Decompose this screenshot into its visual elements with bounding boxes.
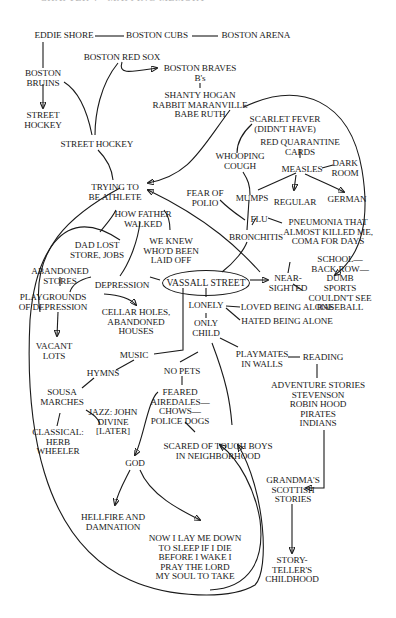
node-measles: MEASLES [281,165,322,175]
node-mumps: MUMPS [236,194,269,204]
node-hellfire-damnation: HELLFIRE AND DAMNATION [81,513,145,532]
node-grandmas-scottish-stories: GRANDMA'S SCOTTISH STORIES [266,476,319,505]
node-reading: READING [303,353,344,363]
node-scared-tough-boys: SCARED OF TOUGH BOYS IN NEIGHBORHOOD [163,442,272,461]
node-music: MUSIC [120,351,149,361]
node-depression: DEPRESSION [95,281,150,291]
node-whooping-cough: WHOOPING COUGH [215,152,264,171]
central-node-vassall-street: VASSALL STREET [162,270,250,296]
node-abandoned-stores: ABANDONED STORES [31,267,88,286]
node-lonely: LONELY [188,301,223,311]
node-now-i-lay-me-down: NOW I LAY ME DOWN TO SLEEP IF I DIE BEFO… [149,534,241,582]
node-fear-of-polio: FEAR OF POLIO [187,189,224,208]
node-trying-to-be-athlete: TRYING TO BE ATHLETE [89,183,142,202]
node-red-quarantine-cards: RED QUARANTINE CARDS [260,138,340,157]
node-regular: REGULAR [274,198,317,208]
node-adventure-stories: ADVENTURE STORIES STEVENSON ROBIN HOOD P… [271,381,365,429]
node-only-child: ONLY CHILD [192,319,220,338]
node-storytellers-childhood: STORY- TELLER'S CHILDHOOD [265,556,319,585]
node-playgrounds: PLAYGROUNDS OF DEPRESSION [19,293,87,312]
node-flu: FLU [250,215,267,225]
node-boston-red-sox: BOSTON RED SOX [84,53,161,63]
node-street-hockey: STREET HOCKEY [61,140,134,150]
memory-map-diagram: CHAPTER 4 · MAPPING MEMORY [0,0,396,618]
node-school-back-row: SCHOOL— BACK ROW— DUMB [311,255,369,284]
node-pneumonia: PNEUMONIA THAT ALMOST KILLED ME, COMA FO… [283,218,373,247]
node-boston-arena: BOSTON ARENA [222,31,291,41]
node-no-pets: NO PETS [164,367,200,377]
node-dark-room: DARK ROOM [331,159,358,178]
node-street-hockey-small: STREET HOCKEY [24,111,62,130]
node-dad-lost-store: DAD LOST STORE, JOBS [70,241,124,260]
node-vacant-lots: VACANT LOTS [36,342,73,361]
node-braves-players: SHANTY HOGAN RABBIT MARANVILLE BABE RUTH [153,91,248,120]
node-eddie-shore: EDDIE SHORE [35,31,94,41]
node-jazz-john-divine: JAZZ: JOHN DIVINE [LATER] [89,408,138,437]
node-hymns: HYMNS [87,369,120,379]
node-scarlet-fever: SCARLET FEVER (DIDN'T HAVE) [250,115,321,134]
node-how-father-walked: HOW FATHER WALKED [114,210,171,229]
node-near-sighted: NEAR- SIGHTED [269,274,308,293]
central-node-label: VASSALL STREET [163,278,249,288]
node-bronchitis: BRONCHITIS [229,233,283,243]
node-boston-cubs: BOSTON CUBS [126,31,188,41]
node-we-knew-laid-off: WE KNEW WHO'D BEEN LAID OFF [143,237,199,266]
node-classical-herb-wheeler: CLASSICAL: HERB WHEELER [32,428,84,457]
node-feared-dogs: FEARED AIREDALES— CHOWS— POLICE DOGS [150,388,209,426]
node-boston-bruins: BOSTON BRUINS [25,69,61,88]
node-sousa-marches: SOUSA MARCHES [40,388,84,407]
node-german: GERMAN [327,195,366,205]
node-hated-being-alone: HATED BEING ALONE [241,317,333,327]
node-cellar-holes: CELLAR HOLES, ABANDONED HOUSES [102,308,171,337]
node-playmates-in-walls: PLAYMATES IN WALLS [236,350,288,369]
node-loved-being-alone: LOVED BEING ALONE [241,303,334,313]
node-boston-braves: BOSTON BRAVES B's [164,64,237,83]
node-god: GOD [125,459,145,469]
